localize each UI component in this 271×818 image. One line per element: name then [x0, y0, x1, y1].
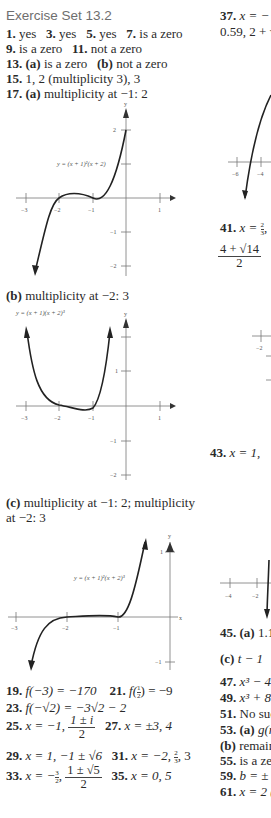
- answer-number: 5.: [86, 26, 96, 41]
- answer-text: is a zero: [19, 41, 62, 56]
- svg-text:−4: −4: [257, 171, 263, 177]
- svg-text:−2: −2: [54, 415, 60, 421]
- answer-number: 11.: [72, 41, 88, 56]
- answer-text: is a zero: [44, 56, 87, 71]
- svg-text:2: 2: [113, 127, 116, 133]
- answer-text: not a zero: [116, 56, 167, 71]
- answer-61: 61. x = 2 (: [220, 784, 271, 799]
- answer-41: 41. x = 23,: [220, 220, 267, 237]
- answer-45c: (c) t − 1: [220, 651, 263, 666]
- answer-number: 7.: [126, 26, 136, 41]
- answer-number: 15.: [6, 71, 22, 86]
- part-label: (c): [6, 495, 20, 510]
- answer-37-cont: 0.59, 2 + √: [220, 24, 271, 39]
- answer-line-25-27: 25. x = −1, 1 ± i2 27. x = ±3, 4: [6, 714, 172, 741]
- answer-number: 3.: [46, 26, 56, 41]
- answer-49: 49. x³ + 8: [220, 690, 271, 705]
- svg-text:−3: −3: [21, 415, 27, 421]
- svg-text:−1: −1: [88, 415, 94, 421]
- y-axis-label: y: [168, 533, 171, 539]
- answer-text: 1, 2 (multiplicity 3), 3: [26, 71, 141, 86]
- part-b-text: (b) multiplicity at −2: 3: [6, 288, 129, 303]
- svg-text:1: 1: [115, 368, 118, 374]
- svg-text:−2: −2: [62, 625, 68, 631]
- graph-37-fragment: −6 −4: [190, 90, 271, 200]
- equation-label: y = (x + 1)²(x + 2): [56, 160, 106, 168]
- svg-text:−1: −1: [88, 207, 94, 213]
- graph-b: y y = (x + 1)(x + 2)³ −3 −2 −1 1 1 −1 −2: [0, 310, 185, 480]
- answer-43: 43. x = 1,: [210, 445, 260, 460]
- answer-line-33-35: 33. x = −32, 1 ± √52 35. x = 0, 5: [6, 764, 172, 791]
- y-axis-label: y: [124, 311, 127, 317]
- part-label: (a): [26, 86, 41, 101]
- answer-text: multiplicity at −1: 2: [44, 86, 148, 101]
- x-axis-label: x: [179, 615, 182, 621]
- graph-a: y −3 −2 −1 1 2 −1 −2 y = (x + 1)²(x + 2): [0, 100, 185, 280]
- answer-41-cont: 4 + √142: [218, 243, 261, 270]
- answer-line-2: 9. is a zero 11. not a zero: [6, 41, 142, 56]
- answer-line-4: 15. 1, 2 (multiplicity 3), 3: [6, 71, 140, 86]
- answer-number: 1.: [6, 26, 16, 41]
- part-c-text-cont: at −2: 3: [6, 510, 46, 525]
- graph-41-fragment: −2: [190, 320, 271, 400]
- exercise-set-heading: Exercise Set 13.2: [6, 8, 112, 23]
- svg-text:−1: −1: [110, 229, 116, 235]
- svg-text:−3: −3: [21, 207, 27, 213]
- answer-55: 55. is a zer: [220, 753, 271, 768]
- answer-37: 37. x = −: [220, 8, 269, 23]
- answer-47: 47. x³ − 4: [220, 674, 271, 689]
- svg-text:1: 1: [158, 415, 161, 421]
- answer-45: 45. (a) 1.1: [220, 625, 271, 640]
- answer-59: 59. b = ±: [220, 768, 268, 783]
- answer-number: 13.: [6, 56, 22, 71]
- graph-43-fragment: −4 −2: [190, 520, 271, 620]
- y-axis-label: y: [124, 101, 127, 107]
- answer-line-1: 1. yes 3. yes 5. yes 7. is a zero: [6, 26, 183, 41]
- answer-text: not a zero: [91, 41, 142, 56]
- answer-text: is a zero: [139, 26, 182, 41]
- equation-label: y = (x + 1)(x + 2)³: [15, 309, 66, 317]
- part-label: (b): [97, 56, 113, 71]
- svg-text:−1: −1: [110, 438, 116, 444]
- svg-text:1: 1: [158, 207, 161, 213]
- svg-text:−2: −2: [110, 472, 116, 478]
- answer-line-23: 23. f(−√2) = −3√2 − 2: [6, 700, 126, 715]
- equation-label: y = (x + 1)²(x + 2)³: [73, 574, 126, 582]
- answer-number: 9.: [6, 41, 16, 56]
- svg-text:−1: −1: [113, 625, 119, 631]
- answer-number: 17.: [6, 86, 22, 101]
- graph-c: y x y = (x + 1)²(x + 2)³ −3 −2 −1 1 −1: [0, 530, 185, 680]
- answer-line-3: 13. (a) is a zero (b) not a zero: [6, 56, 167, 71]
- answer-text: yes: [59, 26, 76, 41]
- svg-text:−2: −2: [110, 263, 116, 269]
- answer-text: yes: [19, 26, 36, 41]
- svg-text:−3: −3: [11, 625, 17, 631]
- part-label: (b): [6, 288, 22, 303]
- answer-line-19-21: 19. f(−3) = −170 21. f(12) = −9: [6, 683, 173, 700]
- answer-51: 51. No suc: [220, 706, 271, 721]
- svg-text:−1: −1: [155, 659, 161, 665]
- svg-text:1: 1: [160, 549, 163, 555]
- part-label: (a): [26, 56, 41, 71]
- svg-text:−2: −2: [252, 593, 258, 599]
- answer-53b: (b) remain: [220, 738, 271, 753]
- answer-line-5: 17. (a) multiplicity at −1: 2: [6, 86, 148, 101]
- answer-53: 53. (a) g(r: [220, 722, 271, 737]
- answer-text: yes: [99, 26, 116, 41]
- svg-text:−2: −2: [256, 345, 262, 351]
- svg-text:−6: −6: [232, 171, 238, 177]
- svg-text:−2: −2: [54, 207, 60, 213]
- svg-text:−4: −4: [225, 593, 231, 599]
- part-c-text: (c) multiplicity at −1: 2; multiplicity: [6, 495, 195, 510]
